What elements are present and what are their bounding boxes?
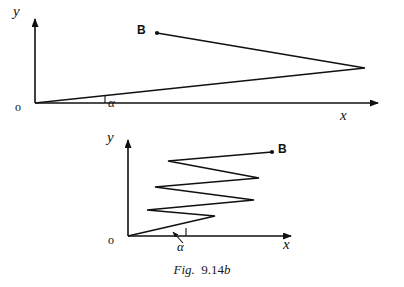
upper-origin-label: o [15,101,21,113]
lower-origin-label: o [108,234,114,246]
figure-drawing-canvas [0,0,404,287]
lower-zigzag-path [128,152,272,236]
upper-point-b-dot [155,31,159,35]
lower-figure-group [128,140,291,243]
upper-angle-label: α [108,96,115,109]
upper-figure-group [35,19,378,103]
figure-page: y x o α B y x o α B Fig. 9.14b [0,0,404,287]
lower-angle-label: α [177,240,184,253]
caption-number: 9.14 [201,262,224,277]
upper-y-axis-label: y [13,4,20,19]
upper-x-axis-label: x [340,108,347,123]
lower-x-axis-label: x [283,237,290,252]
figure-caption: Fig. 9.14b [0,262,404,278]
lower-point-b-label: B [278,143,287,155]
lower-point-b-dot [270,150,274,154]
lower-y-axis-label: y [107,130,114,145]
upper-trajectory-path [35,33,365,103]
caption-fig-word: Fig. [173,262,194,277]
caption-suffix: b [224,262,231,277]
upper-point-b-label: B [137,24,146,36]
